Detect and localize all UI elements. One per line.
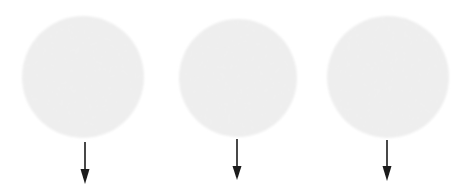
- grain-disc-2: [179, 19, 297, 137]
- grain-arrow-figure: [0, 0, 470, 191]
- grain-disc-1: [22, 16, 144, 138]
- grain-disc-3: [327, 16, 449, 138]
- figure-canvas: Three circular grain discs with downward…: [0, 0, 470, 191]
